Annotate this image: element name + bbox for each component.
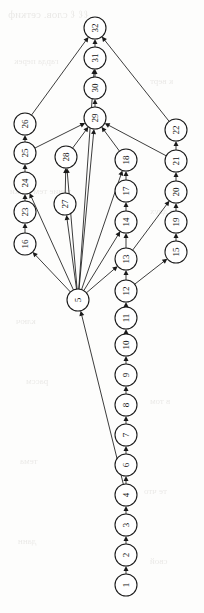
- graph-edge-arrowhead: [124, 416, 129, 421]
- graph-node-label: 13: [121, 254, 131, 264]
- graph-node-label: 6: [121, 462, 131, 467]
- graph-node-label: 15: [171, 247, 181, 257]
- graph-edge: [79, 132, 94, 289]
- graph-node-label: 18: [121, 155, 131, 165]
- graph-edge: [86, 268, 115, 293]
- graph-edge-arrowhead: [23, 194, 28, 199]
- graph-node[interactable]: 20: [165, 181, 187, 203]
- graph-node[interactable]: 32: [84, 17, 106, 39]
- graph-node-label: 4: [121, 492, 131, 497]
- graph-node-label: 11: [121, 314, 131, 323]
- graph-edge-arrowhead: [124, 476, 129, 481]
- graph-node[interactable]: 22: [165, 119, 187, 141]
- graph-node[interactable]: 3: [115, 514, 137, 536]
- graph-node-label: 2: [121, 553, 131, 558]
- graph-edge: [79, 72, 94, 289]
- graph-edge: [73, 129, 87, 148]
- graph-node[interactable]: 1: [115, 574, 137, 596]
- graph-edge-arrowhead: [164, 201, 169, 207]
- graph-edge: [35, 254, 71, 292]
- graph-node[interactable]: 15: [165, 241, 187, 263]
- graph-node[interactable]: 30: [84, 77, 106, 99]
- graph-node-label: 29: [90, 113, 100, 123]
- graph-node[interactable]: 19: [165, 211, 187, 233]
- graph-node-label: 26: [20, 119, 30, 129]
- graph-node-label: 28: [61, 152, 71, 162]
- graph-node-label: 27: [60, 199, 70, 209]
- graph-node[interactable]: 2: [115, 544, 137, 566]
- graph-node[interactable]: 26: [14, 113, 36, 135]
- graph-node[interactable]: 21: [165, 150, 187, 172]
- graph-edge-arrowhead: [124, 329, 129, 334]
- graph-edge-arrowhead: [124, 302, 129, 307]
- graph-node[interactable]: 6: [115, 454, 137, 476]
- graph-node-label: 9: [121, 372, 131, 377]
- graph-edge-arrowhead: [124, 270, 129, 275]
- graph-edge-arrowhead: [23, 223, 28, 228]
- graph-node[interactable]: 17: [115, 180, 137, 202]
- graph-edge-arrowhead: [124, 506, 129, 511]
- graph-edge-arrowhead: [93, 39, 98, 44]
- graph-node[interactable]: 14: [115, 211, 137, 233]
- graph-node-label: 24: [20, 178, 30, 188]
- graph-edge-arrowhead: [93, 99, 98, 104]
- graph-node[interactable]: 4: [115, 484, 137, 506]
- graph-edge-arrowhead: [23, 164, 28, 169]
- graph-edge: [135, 261, 165, 285]
- graph-node-label: 32: [90, 24, 100, 33]
- graph-node-label: 20: [171, 187, 181, 197]
- graph-node[interactable]: 29: [84, 107, 106, 129]
- graph-node-label: 3: [121, 522, 131, 527]
- graph-edge: [104, 39, 169, 121]
- graph-node[interactable]: 23: [14, 201, 36, 223]
- graph-edge: [103, 129, 119, 151]
- graph-node-label: 22: [171, 126, 181, 135]
- graph-edge-arrowhead: [23, 135, 28, 140]
- graph-edge-arrowhead: [124, 202, 129, 207]
- graph-node[interactable]: 16: [14, 233, 36, 255]
- graph-node[interactable]: 31: [84, 47, 106, 69]
- graph-node-label: 14: [121, 217, 131, 227]
- graph-edge-arrowhead: [102, 127, 107, 133]
- figure-canvas: ℓℓ ℓ слов. сеткифгарда перекк верттение …: [0, 0, 204, 613]
- graph-node-label: 8: [121, 402, 131, 407]
- graph-edge-arrowhead: [174, 141, 179, 146]
- graph-node-label: 19: [171, 217, 181, 227]
- graph-node[interactable]: 25: [14, 142, 36, 164]
- graph-edge: [84, 234, 119, 291]
- graph-node[interactable]: 9: [115, 364, 137, 386]
- graph-edge-arrowhead: [124, 233, 129, 238]
- graph-edge-arrowhead: [118, 170, 123, 176]
- graph-edge-arrowhead: [102, 37, 107, 42]
- dag-graph: 1234678910111213141718527281623242526151…: [0, 0, 204, 613]
- graph-edge-arrowhead: [79, 311, 84, 316]
- graph-edge: [108, 125, 167, 156]
- graph-node[interactable]: 10: [115, 334, 137, 356]
- graph-node-label: 5: [73, 297, 83, 302]
- graph-edge: [133, 203, 168, 250]
- graph-node[interactable]: 28: [55, 146, 77, 168]
- graph-node-label: 25: [20, 148, 30, 158]
- graph-node[interactable]: 27: [54, 193, 76, 215]
- graph-edge: [31, 39, 86, 115]
- graph-node-label: 31: [90, 54, 100, 63]
- graph-edge-arrowhead: [174, 203, 179, 208]
- graph-node[interactable]: 8: [115, 394, 137, 416]
- graph-node[interactable]: 12: [115, 280, 137, 302]
- graph-edge-arrowhead: [124, 171, 129, 176]
- graph-node[interactable]: 18: [115, 149, 137, 171]
- graph-node[interactable]: 11: [115, 307, 137, 329]
- graph-node[interactable]: 7: [115, 424, 137, 446]
- graph-edge-arrowhead: [91, 129, 96, 134]
- graph-edge-arrowhead: [124, 566, 129, 571]
- graph-node-label: 21: [171, 157, 181, 166]
- graph-node-label: 23: [20, 207, 30, 217]
- graph-edge-arrowhead: [124, 446, 129, 451]
- graph-edge-arrowhead: [84, 37, 89, 43]
- graph-edge-arrowhead: [65, 215, 70, 220]
- graph-node[interactable]: 13: [115, 248, 137, 270]
- graph-node-label: 16: [20, 239, 30, 249]
- graph-node[interactable]: 24: [14, 172, 36, 194]
- graph-node-label: 17: [121, 186, 131, 196]
- graph-node[interactable]: 5: [67, 289, 89, 311]
